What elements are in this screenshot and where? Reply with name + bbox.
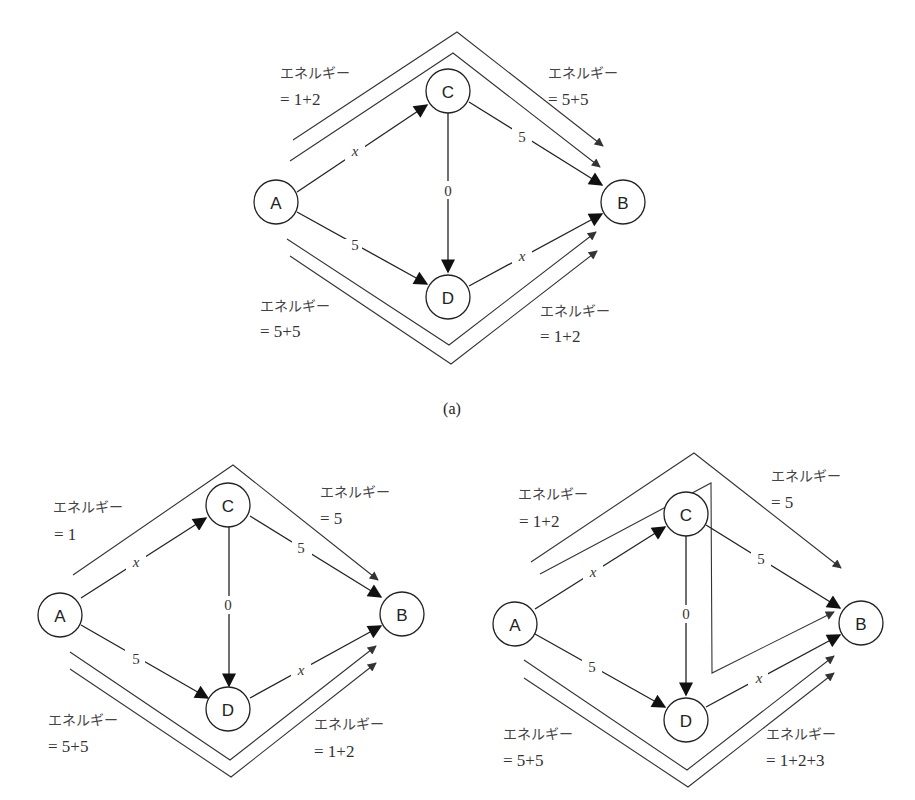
energy-value-top-left: = 1+2 <box>519 512 559 531</box>
energy-value-bottom-right: = 1+2 <box>314 742 354 761</box>
weight-c-d: 0 <box>682 606 690 622</box>
energy-label-top-right: エネルギー <box>771 468 841 484</box>
edge-c-b <box>469 102 602 185</box>
node-a: A <box>493 602 537 646</box>
energy-label-top-left: エネルギー <box>53 499 123 515</box>
weight-d-b: x <box>297 662 305 678</box>
caption-a: (a) <box>443 400 461 418</box>
weight-c-b: 5 <box>297 540 305 556</box>
energy-value-bottom-left: = 5+5 <box>48 737 88 756</box>
weight-a-d: 5 <box>588 659 596 675</box>
energy-label-bottom-right: エネルギー <box>766 726 836 742</box>
node-b: B <box>601 180 645 224</box>
weight-c-d: 0 <box>224 597 232 613</box>
edge-d-b <box>706 635 840 707</box>
energy-label-bottom-right: エネルギー <box>314 716 384 732</box>
node-b: B <box>380 592 424 636</box>
svg-text:B: B <box>855 615 866 634</box>
energy-value-top-left: = 1+2 <box>280 90 320 109</box>
weight-a-c: x <box>132 554 140 570</box>
weight-d-b: x <box>755 670 763 686</box>
weight-a-c: x <box>351 143 359 159</box>
svg-text:B: B <box>396 606 407 625</box>
weight-a-d: 5 <box>351 237 359 253</box>
diagram-b-right: x 5 5 x 0 A C D B エネルギー = 1+2 エネルギー = 5 … <box>493 453 883 787</box>
node-a: A <box>38 593 82 637</box>
svg-text:A: A <box>509 616 521 635</box>
node-c: C <box>426 69 470 113</box>
energy-label-top-right: エネルギー <box>320 484 390 500</box>
energy-label-bottom-left: エネルギー <box>48 712 118 728</box>
energy-value-bottom-left: = 5+5 <box>503 751 543 770</box>
svg-text:D: D <box>442 289 454 308</box>
svg-text:C: C <box>680 506 692 525</box>
svg-text:C: C <box>222 497 234 516</box>
energy-label-bottom-right: エネルギー <box>540 303 610 319</box>
weight-d-b: x <box>518 248 526 264</box>
weight-c-b: 5 <box>518 129 526 145</box>
svg-text:A: A <box>270 194 282 213</box>
node-d: D <box>206 687 250 731</box>
energy-label-top-left: エネルギー <box>280 65 350 81</box>
energy-value-top-left: = 1 <box>54 525 76 544</box>
node-d: D <box>664 698 708 742</box>
weight-c-b: 5 <box>757 551 765 567</box>
svg-text:B: B <box>617 194 628 213</box>
svg-text:D: D <box>222 701 234 720</box>
svg-text:A: A <box>54 607 66 626</box>
energy-label-top-right: エネルギー <box>548 65 618 81</box>
node-a: A <box>254 180 298 224</box>
energy-value-top-right: = 5 <box>771 493 793 512</box>
svg-text:D: D <box>680 712 692 731</box>
energy-label-bottom-left: エネルギー <box>503 726 573 742</box>
diagram-a: x 5 5 x 0 A C D B エネルギー = 1+2 エネルギー = 5+… <box>254 32 645 418</box>
svg-text:C: C <box>442 83 454 102</box>
edge-d-b <box>250 626 381 698</box>
weight-a-c: x <box>589 564 597 580</box>
node-c: C <box>206 483 250 527</box>
energy-value-top-right: = 5 <box>320 509 342 528</box>
edge-d-b <box>469 214 602 286</box>
energy-value-bottom-right: = 1+2 <box>540 327 580 346</box>
diagram-b-left: x 5 5 x 0 A C D B エネルギー = 1 エネルギー = 5 エネ… <box>38 465 424 777</box>
node-c: C <box>664 492 708 536</box>
node-d: D <box>426 275 470 319</box>
figure-canvas: x 5 5 x 0 A C D B エネルギー = 1+2 エネルギー = 5+… <box>0 0 915 800</box>
weight-c-d: 0 <box>444 183 452 199</box>
energy-value-bottom-right: = 1+2+3 <box>766 751 825 770</box>
energy-label-bottom-left: エネルギー <box>260 298 330 314</box>
weight-a-d: 5 <box>132 651 140 667</box>
energy-value-top-right: = 5+5 <box>548 90 588 109</box>
energy-label-top-left: エネルギー <box>518 486 588 502</box>
edge-c-b <box>250 516 381 597</box>
edge-c-b <box>706 525 840 608</box>
node-b: B <box>839 601 883 645</box>
energy-value-bottom-left: = 5+5 <box>260 322 300 341</box>
